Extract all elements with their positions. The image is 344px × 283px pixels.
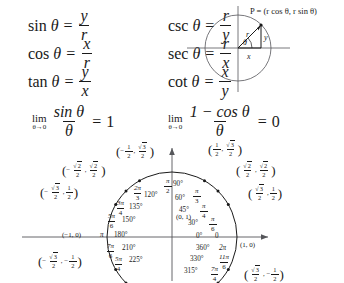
identity-tan-name: tan: [28, 73, 48, 90]
angle-deg-60: 60°: [175, 195, 185, 202]
denominator: 4: [115, 264, 123, 273]
equals-sign: =: [258, 113, 267, 131]
denominator: 6: [209, 224, 217, 233]
y-axis-arrow: [169, 148, 175, 155]
angle-label: θ: [243, 38, 247, 47]
coordinate-60: (12, √32): [208, 142, 242, 158]
coordinate-330: (√32, −12): [244, 267, 284, 283]
angle-rad-315: 7π 4: [209, 266, 220, 283]
equals-sign: =: [64, 17, 73, 35]
identity-tan: tan θ = y x: [28, 64, 92, 99]
angle-deg-225: 225°: [129, 257, 143, 264]
limit-value: 0: [272, 113, 280, 131]
numerator: 1 − cos θ: [188, 104, 252, 121]
angle-deg-30: 30°: [188, 220, 198, 227]
limit-formulas: lim θ→0 sin θ θ = 1 lim θ→0 1 − cos θ θ …: [0, 104, 344, 130]
denominator: 4: [211, 274, 219, 283]
diagram-point-p: [259, 23, 262, 26]
theta-symbol: θ: [52, 73, 60, 90]
identity-cos-name: cos: [28, 45, 49, 62]
equals-sign: =: [92, 113, 101, 131]
numerator: 11π: [217, 254, 231, 262]
limit-op-text: lim: [168, 113, 183, 124]
x-axis-arrow: [261, 234, 268, 240]
numerator: π: [193, 188, 201, 196]
angle-deg-180: 180°: [114, 232, 128, 239]
coordinate-30: (√32, 12): [248, 186, 282, 202]
angle-deg-135: 135°: [129, 204, 143, 211]
angle-rad-90: π 2: [164, 178, 172, 195]
coordinate-135: (−√22, √22): [62, 163, 105, 179]
numerator: 2π: [132, 185, 143, 193]
diagram-angle-arc: [248, 38, 252, 48]
equals-sign: =: [66, 45, 75, 63]
numerator: x: [81, 36, 92, 53]
denominator: x: [79, 81, 90, 99]
numerator: sin θ: [52, 104, 87, 121]
angle-deg-210: 210°: [122, 245, 136, 252]
angle-rad-0: 0: [215, 233, 219, 240]
angle-rad-360: 2π: [219, 245, 226, 252]
identity-sin-name: sin: [28, 17, 47, 34]
denominator: 3: [134, 193, 142, 202]
limit-value: 1: [106, 113, 114, 131]
numerator: 7π: [105, 243, 116, 251]
angle-rad-150: 5π 6: [106, 213, 117, 230]
angle-definition-diagram: r y x θ P = (r cos θ, r sin θ): [182, 0, 344, 96]
numerator: y: [79, 64, 90, 81]
numerator: 5π: [113, 256, 124, 264]
coordinate-210: (−√32, −12): [38, 254, 82, 270]
angle-rad-45: π 4: [200, 203, 208, 220]
theta-symbol: θ: [51, 17, 59, 34]
vertical-leg-label: y: [263, 33, 268, 42]
diagram-hypotenuse: [238, 25, 261, 48]
denominator: 4: [200, 211, 208, 220]
angle-rad-30: π 6: [209, 216, 217, 233]
coordinate-120: (−12, √32): [116, 144, 154, 160]
axis-point-left: (−1, 0): [62, 232, 81, 239]
coordinate-150: (−√32, 12): [40, 185, 78, 201]
limit-operator: lim θ→0: [32, 113, 47, 131]
numerator: y: [79, 8, 90, 25]
denominator: 3: [193, 196, 201, 205]
equals-sign: =: [64, 73, 73, 91]
angle-rad-60: π 3: [193, 188, 201, 205]
axis-point-right: (1, 0): [240, 242, 255, 249]
fraction-y-over-x: y x: [79, 64, 90, 99]
angle-deg-330: 330°: [190, 256, 204, 263]
theta-symbol: θ: [53, 45, 61, 62]
angle-deg-45: 45°: [179, 207, 189, 214]
numerator: π: [209, 216, 217, 224]
denominator: 6: [220, 262, 228, 271]
unit-circle-chart: (0, 1) (−1, 0) (1, 0) 0° 0 30° π 6 45° π…: [0, 130, 344, 281]
denominator: 2: [164, 186, 172, 195]
denominator: 6: [108, 221, 116, 230]
numerator: π: [164, 178, 172, 186]
coordinate-45: (√22, √22): [236, 163, 276, 179]
angle-deg-315: 315°: [184, 268, 198, 275]
angle-rad-225: 5π 4: [113, 256, 124, 273]
limit-operator: lim θ→0: [168, 113, 183, 131]
angle-deg-150: 150°: [122, 217, 136, 224]
horizontal-leg-label: x: [246, 52, 251, 61]
numerator: 5π: [106, 213, 117, 221]
angle-deg-360: 360°: [196, 245, 210, 252]
point-p-label: P = (r cos θ, r sin θ): [250, 6, 317, 16]
numerator: 3π: [115, 200, 126, 208]
angle-deg-90: 90°: [173, 181, 183, 188]
angle-rad-120: 2π 3: [132, 185, 143, 202]
angle-deg-0: 0°: [196, 233, 202, 240]
angle-rad-180: π: [100, 232, 104, 239]
angle-deg-120: 120°: [144, 192, 158, 199]
numerator: π: [200, 203, 208, 211]
numerator: 7π: [209, 266, 220, 274]
limit-op-text: lim: [32, 113, 47, 124]
